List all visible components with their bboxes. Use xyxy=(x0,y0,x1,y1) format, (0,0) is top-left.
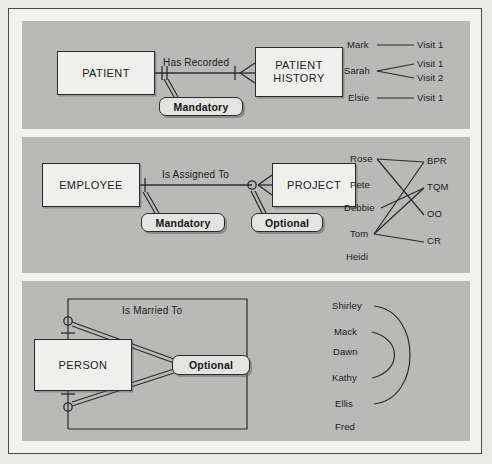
instance-label-cr: CR xyxy=(427,235,441,246)
instance-label-visit-1c: Visit 1 xyxy=(417,92,443,103)
instance-label-kathy: Kathy xyxy=(332,372,357,383)
entity-person: PERSON xyxy=(34,339,132,391)
callout-optional: Optional xyxy=(172,355,250,375)
callout-optional: Optional xyxy=(251,213,323,232)
instance-label-mark: Mark xyxy=(347,39,369,50)
instance-label-sarah: Sarah xyxy=(344,65,370,76)
callout-mandatory: Mandatory xyxy=(141,213,225,232)
instance-label-tom: Tom xyxy=(350,228,368,239)
panel-person-married: PERSON Is Married To Optional Shirley Ma… xyxy=(22,281,470,441)
entity-employee-label: EMPLOYEE xyxy=(59,179,123,192)
instance-label-visit-1a: Visit 1 xyxy=(417,39,443,50)
entity-employee: EMPLOYEE xyxy=(42,163,140,207)
instance-label-debbie: Debbie xyxy=(344,202,375,213)
instance-label-elsie: Elsie xyxy=(348,92,369,103)
relationship-label-has-recorded: Has Recorded xyxy=(163,57,229,68)
instance-label-bpr: BPR xyxy=(427,155,447,166)
callout-mandatory: Mandatory xyxy=(159,97,243,116)
instance-label-visit-1b: Visit 1 xyxy=(417,58,443,69)
instance-label-ellis: Ellis xyxy=(335,398,353,409)
relationship-label-is-married-to: Is Married To xyxy=(122,305,182,316)
figure-frame: PATIENT PATIENT HISTORY Has Recorded Man… xyxy=(8,8,482,454)
instance-label-dawn: Dawn xyxy=(333,346,358,357)
callout-mandatory-label: Mandatory xyxy=(156,217,211,229)
callout-mandatory-label: Mandatory xyxy=(174,101,229,113)
panel-patient-history: PATIENT PATIENT HISTORY Has Recorded Man… xyxy=(22,21,470,129)
callout-optional-label: Optional xyxy=(189,359,233,371)
relationship-label-is-assigned-to: Is Assigned To xyxy=(162,169,229,180)
callout-optional-label: Optional xyxy=(265,217,309,229)
instance-label-heidi: Heidi xyxy=(346,251,368,262)
instance-label-fred: Fred xyxy=(335,421,355,432)
entity-project: PROJECT xyxy=(272,163,356,207)
panel-employee-project: EMPLOYEE PROJECT Is Assigned To Mandator… xyxy=(22,137,470,273)
instance-label-pete: Pete xyxy=(350,179,370,190)
instance-label-visit-2: Visit 2 xyxy=(417,72,443,83)
instance-label-mack: Mack xyxy=(334,326,357,337)
entity-patient-label: PATIENT xyxy=(82,67,130,80)
instance-label-shirley: Shirley xyxy=(332,300,362,311)
instance-label-tqm: TQM xyxy=(427,181,448,192)
entity-patient-history-label: PATIENT HISTORY xyxy=(273,59,324,85)
entity-project-label: PROJECT xyxy=(287,179,341,192)
instance-label-rose: Rose xyxy=(350,153,373,164)
entity-person-label: PERSON xyxy=(59,359,108,372)
entity-patient-history: PATIENT HISTORY xyxy=(255,47,343,97)
entity-patient: PATIENT xyxy=(57,51,155,95)
instance-label-oo: OO xyxy=(427,208,442,219)
